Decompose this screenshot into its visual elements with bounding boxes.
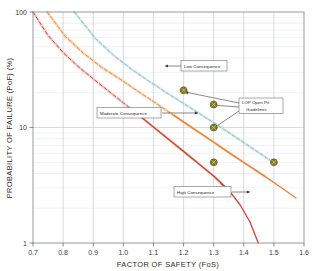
y-axis-title: PROBABILITY OF FAILURE (PoF) (%) — [5, 58, 14, 199]
annotation-moderate-consequence[interactable]: Moderate Consequence — [97, 108, 161, 119]
y-tick-label: 10 — [19, 124, 27, 131]
gridlines — [33, 12, 304, 243]
x-axis-title: FACTOR OF SAFETY (FoS) — [117, 260, 220, 269]
data-point-marker[interactable] — [180, 87, 187, 94]
annotation-low-consequence[interactable]: Low Consequence — [181, 61, 227, 72]
y-tick-label: 1 — [23, 240, 27, 247]
x-tick-label: 1.1 — [149, 249, 159, 256]
x-tick-label: 1.6 — [299, 249, 309, 256]
chart-container: Low Consequence Moderate Consequence Hig… — [0, 0, 321, 271]
annotation-high-consequence[interactable]: High Consequence — [174, 187, 231, 198]
x-tick-label: 1.5 — [269, 249, 279, 256]
x-tick-label: 0.9 — [88, 249, 98, 256]
x-tick-label: 1.0 — [118, 249, 128, 256]
chart-background — [0, 0, 321, 271]
x-tick-label: 1.4 — [239, 249, 249, 256]
data-point-marker[interactable] — [270, 159, 277, 166]
data-point-marker[interactable] — [210, 101, 217, 108]
x-tick-label: 1.3 — [209, 249, 219, 256]
data-point-marker[interactable] — [210, 159, 217, 166]
annotation-high-label: High Consequence — [177, 190, 215, 195]
pof-fos-chart: Low Consequence Moderate Consequence Hig… — [0, 0, 321, 271]
data-point-marker[interactable] — [210, 124, 217, 131]
x-tick-label: 0.7 — [28, 249, 38, 256]
annotation-lop-label-line2: Guidelines — [246, 107, 268, 112]
y-tick-label: 100 — [15, 9, 27, 16]
annotation-low-label: Low Consequence — [184, 64, 221, 69]
annotation-lop-guidelines[interactable]: LOP Open Pit Guidelines — [239, 98, 283, 114]
annotation-lop-label-line1: LOP Open Pit — [242, 100, 270, 105]
x-tick-label: 1.2 — [179, 249, 189, 256]
x-tick-label: 0.8 — [58, 249, 68, 256]
annotation-moderate-label: Moderate Consequence — [100, 111, 147, 116]
